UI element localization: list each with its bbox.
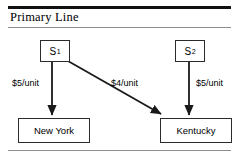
- node-source-s1[interactable]: S1: [40, 40, 70, 62]
- node-source-s2-subscript: 2: [192, 48, 196, 55]
- footer-rule-thin: [8, 150, 231, 151]
- node-source-s1-label: S: [49, 46, 56, 57]
- node-destination-kentucky[interactable]: Kentucky: [160, 118, 232, 143]
- figure-panel: Primary Line S1 S2 New York Kentucky: [0, 0, 239, 160]
- edge-label-s2-kentucky: $5/unit: [196, 78, 223, 88]
- node-source-s1-subscript: 1: [57, 48, 61, 55]
- node-destination-kentucky-label: Kentucky: [176, 125, 215, 136]
- edge-label-s1-newyork: $5/unit: [12, 78, 39, 88]
- node-destination-new-york-label: New York: [34, 125, 74, 136]
- edge-label-s1-kentucky: $4/unit: [111, 78, 138, 88]
- node-source-s2[interactable]: S2: [175, 40, 205, 62]
- node-destination-new-york[interactable]: New York: [18, 118, 90, 143]
- node-source-s2-label: S: [184, 46, 191, 57]
